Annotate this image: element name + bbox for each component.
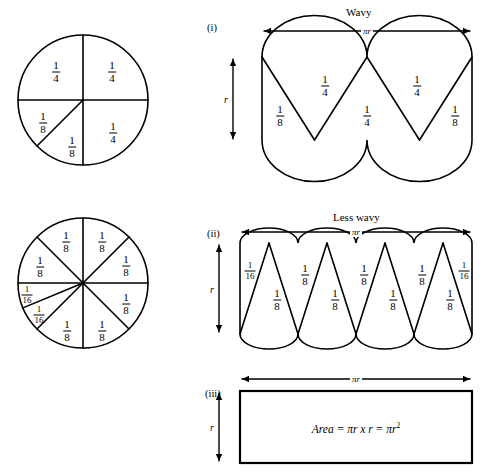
frac-num: 1 [24, 285, 31, 294]
diagram-geometry [0, 0, 485, 475]
roman-numeral-i: (i) [207, 22, 217, 33]
less-wavy-label-sixteenth-right: 116 [459, 254, 470, 281]
circle-2-label-eighth-7: 18 [63, 314, 71, 343]
frac-num: 1 [39, 111, 47, 122]
circle-1-label-quarter-tr: 14 [108, 55, 116, 84]
frac-num: 1 [321, 74, 329, 85]
circle-1-label-quarter-tl: 14 [52, 55, 60, 84]
frac-den: 8 [273, 300, 281, 312]
circle-1-label-eighth-upper: 18 [39, 106, 47, 135]
frac-den: 8 [62, 242, 70, 254]
circle-1-label-eighth-lower: 18 [68, 130, 76, 159]
frac-num: 1 [413, 74, 421, 85]
frac-den: 4 [52, 72, 60, 84]
circle-2-label-eighth-2: 18 [98, 225, 106, 254]
rectangle-width-label: πr [350, 374, 362, 384]
wavy-label-eighth-left: 18 [276, 99, 284, 128]
frac-num: 1 [52, 60, 60, 71]
frac-den: 8 [122, 266, 130, 278]
less-wavy-label-eighth-4: 18 [360, 258, 368, 287]
frac-num: 1 [360, 263, 368, 274]
area-formula-exponent: 2 [397, 421, 401, 430]
frac-num: 1 [273, 288, 281, 299]
frac-num: 1 [62, 230, 70, 241]
frac-den: 16 [459, 271, 470, 281]
area-formula: Area = πr x r = πr2 [312, 421, 401, 435]
circle-2-label-sixteenth-2: 116 [34, 298, 45, 325]
frac-den: 8 [331, 300, 339, 312]
frac-den: 8 [39, 123, 47, 135]
frac-num: 1 [98, 319, 106, 330]
less-wavy-label-eighth-3: 18 [331, 283, 339, 312]
frac-num: 1 [301, 263, 309, 274]
frac-num: 1 [331, 288, 339, 299]
frac-num: 1 [108, 60, 116, 71]
area-formula-text: Area = πr x r = πr [312, 423, 397, 435]
frac-num: 1 [36, 255, 44, 266]
roman-numeral-ii: (ii) [207, 228, 220, 239]
wavy-chord-3 [367, 57, 420, 140]
frac-den: 8 [418, 275, 426, 287]
frac-num: 1 [109, 121, 117, 132]
caption-wavy: Wavy [346, 6, 371, 18]
wavy-label-quarter-2: 14 [363, 99, 371, 128]
frac-den: 8 [446, 300, 454, 312]
frac-den: 16 [245, 271, 256, 281]
frac-den: 16 [34, 315, 45, 325]
circle-2-label-eighth-1: 18 [62, 225, 70, 254]
frac-den: 4 [413, 86, 421, 98]
less-wavy-label-eighth-7: 18 [446, 283, 454, 312]
less-wavy-height-label: r [210, 284, 214, 295]
frac-den: 8 [389, 300, 397, 312]
circle-2-label-eighth-4: 18 [122, 249, 130, 278]
frac-num: 1 [461, 261, 468, 270]
circle-2-label-eighth-6: 18 [98, 314, 106, 343]
circle-2-label-eighth-5: 18 [122, 287, 130, 316]
wavy-chord-4 [420, 57, 473, 140]
frac-num: 1 [63, 319, 71, 330]
less-wavy-label-eighth-1: 18 [273, 283, 281, 312]
circle-2-label-eighth-3: 18 [36, 250, 44, 279]
frac-num: 1 [247, 261, 254, 270]
frac-den: 8 [276, 116, 284, 128]
frac-num: 1 [418, 263, 426, 274]
caption-less-wavy: Less wavy [333, 211, 380, 223]
frac-num: 1 [68, 135, 76, 146]
circle-2-label-sixteenth-1: 116 [22, 278, 33, 305]
wavy-height-label: r [224, 94, 228, 105]
less-wavy-label-eighth-2: 18 [301, 258, 309, 287]
less-wavy-label-eighth-5: 18 [389, 283, 397, 312]
frac-den: 4 [109, 133, 117, 145]
frac-num: 1 [446, 288, 454, 299]
frac-num: 1 [389, 288, 397, 299]
roman-numeral-iii: (iii) [205, 388, 221, 399]
frac-den: 4 [321, 86, 329, 98]
wavy-label-quarter-1: 14 [321, 69, 329, 98]
less-wavy-label-sixteenth-left: 116 [245, 254, 256, 281]
frac-num: 1 [98, 230, 106, 241]
dimension-arrows [216, 28, 470, 461]
frac-den: 16 [22, 295, 33, 305]
frac-num: 1 [276, 104, 284, 115]
frac-den: 8 [122, 304, 130, 316]
frac-num: 1 [36, 305, 43, 314]
frac-den: 8 [301, 275, 309, 287]
frac-den: 4 [363, 116, 371, 128]
frac-num: 1 [122, 254, 130, 265]
frac-num: 1 [122, 292, 130, 303]
frac-den: 4 [108, 72, 116, 84]
wavy-chord-1 [262, 57, 315, 140]
frac-den: 8 [98, 331, 106, 343]
wavy-label-eighth-right: 18 [451, 99, 459, 128]
wavy-label-quarter-3: 14 [413, 69, 421, 98]
frac-num: 1 [451, 104, 459, 115]
frac-num: 1 [363, 104, 371, 115]
rectangle-height-label: r [210, 422, 214, 433]
frac-den: 8 [98, 242, 106, 254]
figure-canvas: Wavy Less wavy (i) (ii) (iii) πr πr πr r… [0, 0, 485, 475]
less-wavy-width-label: πr [350, 227, 362, 237]
frac-den: 8 [68, 147, 76, 159]
frac-den: 8 [36, 267, 44, 279]
frac-den: 8 [451, 116, 459, 128]
wavy-width-label: πr [361, 26, 373, 36]
